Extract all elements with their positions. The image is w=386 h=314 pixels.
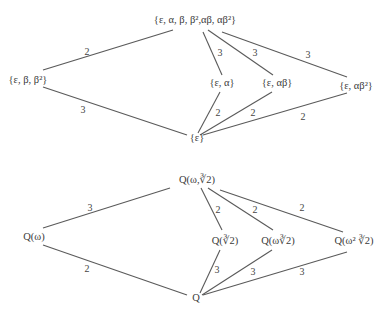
node-field-q-cbrt2: Q(∛2)	[212, 234, 239, 247]
field-lattice: Q(ω,∛2) Q(ω) Q(∛2) Q(ω∛2) Q(ω² ∛2) Q 3 2…	[23, 173, 374, 303]
galois-correspondence-diagram: {ε, α, β, β²,αβ, αβ²} {ε, β, β²} {ε, α} …	[0, 0, 386, 314]
node-full-group: {ε, α, β, β²,αβ, αβ²}	[154, 14, 236, 25]
edge-label: 2	[301, 111, 306, 122]
edge-top-left	[43, 30, 173, 70]
node-subgroup-alpha: {ε, α}	[209, 77, 234, 88]
edge-mid3-bottom	[203, 252, 347, 295]
edge-label: 3	[81, 104, 86, 115]
edge-label: 3	[251, 266, 256, 277]
edge-label: 2	[85, 46, 90, 57]
edge-label: 3	[218, 47, 223, 58]
edge-top-mid3	[220, 190, 343, 232]
edge-mid2-bottom	[202, 250, 272, 295]
node-field-q: Q	[192, 292, 200, 303]
edge-top-left	[43, 188, 170, 228]
node-field-q-omega: Q(ω)	[23, 231, 45, 243]
node-field-q-omega2-cbrt2: Q(ω² ∛2)	[334, 234, 374, 247]
edge-top-mid3	[222, 32, 347, 77]
edge-left-bottom	[43, 245, 187, 295]
node-splitting-field: Q(ω,∛2)	[179, 173, 216, 186]
edge-label: 2	[216, 107, 221, 118]
edge-label: 3	[215, 264, 220, 275]
edge-mid2-bottom	[200, 92, 272, 135]
edge-label: 3	[300, 266, 305, 277]
edge-left-bottom	[43, 87, 187, 135]
node-subgroup-beta: {ε, β, β²}	[9, 74, 48, 85]
edge-label: 2	[251, 107, 256, 118]
edge-label: 2	[85, 263, 90, 274]
subgroup-lattice: {ε, α, β, β²,αβ, αβ²} {ε, β, β²} {ε, α} …	[9, 14, 373, 143]
node-subgroup-alphabeta2: {ε, αβ²}	[339, 80, 373, 91]
edge-label: 2	[300, 202, 305, 213]
edge-label: 3	[306, 49, 311, 60]
node-field-q-omega-cbrt2: Q(ω∛2)	[261, 234, 295, 247]
node-trivial-group: {ε}	[190, 132, 205, 143]
edge-label: 3	[88, 202, 93, 213]
edge-mid3-bottom	[203, 93, 347, 135]
edge-label: 2	[253, 204, 258, 215]
node-subgroup-alphabeta: {ε, αβ}	[262, 77, 293, 88]
edge-label: 2	[216, 204, 221, 215]
edge-label: 3	[253, 47, 258, 58]
